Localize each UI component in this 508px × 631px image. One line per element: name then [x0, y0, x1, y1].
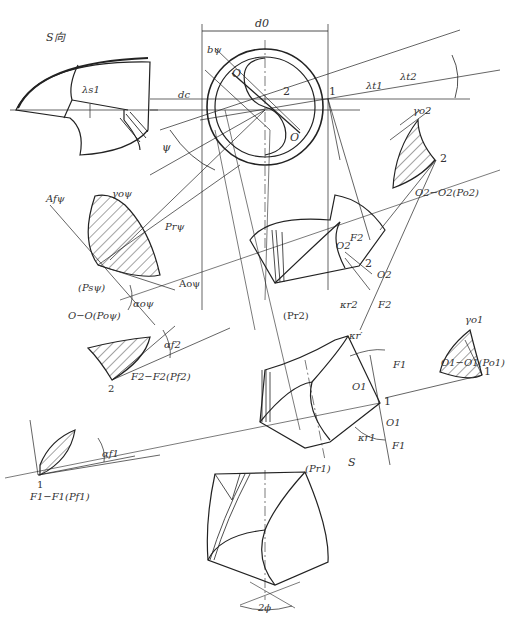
kappa-r1-label: κr1: [358, 433, 376, 443]
two-phi-label: 2ϕ: [258, 603, 271, 613]
lambda-s1-label: λs1: [82, 85, 100, 95]
o-section-label: O−O(Poψ): [68, 311, 121, 321]
psi-label: ψ: [162, 142, 171, 153]
o1-section-label: O1−O1(Po1): [441, 358, 505, 368]
f1-section-label: F1−F1(Pf1): [30, 492, 90, 502]
o2-section-label: O2−O2(Po2): [415, 188, 479, 198]
f2-b-label: F2: [378, 300, 391, 310]
point-2-right-label: 2: [440, 153, 447, 164]
o1-a-label: O1: [352, 382, 367, 392]
dc-label: dc: [178, 90, 190, 100]
o-bottom-label: O: [290, 132, 299, 143]
lambda-t1-label: λt1: [366, 81, 383, 91]
drill-bottom-view: [207, 470, 328, 610]
o2-b-label: O2: [377, 270, 392, 280]
point-2-mid-label: 2: [365, 258, 372, 269]
drill-geometry-diagram: S向 λs1 d0 bψ dc O O 2 1 λt1 λt2 ψ γo2 2 …: [0, 0, 508, 631]
a-f-psi-label: Afψ: [46, 194, 65, 204]
point-1-mid-label: 1: [384, 396, 391, 407]
f1-b-label: F1: [392, 441, 405, 451]
kappa-r2-label: κr2: [340, 300, 358, 310]
f1-section: [30, 420, 160, 475]
p-r2-label: (Pr2): [283, 311, 309, 321]
lambda-t2-label: λt2: [400, 72, 417, 82]
f2-a-label: F2: [350, 233, 363, 243]
alpha-f2-label: αf2: [164, 340, 181, 350]
point-1-left-label: 1: [37, 480, 43, 490]
point-2-top-label: 2: [283, 86, 290, 97]
a-o-psi-label: Aoψ: [179, 279, 200, 289]
p-r1-label: (Pr1): [305, 464, 331, 474]
point-1-top-label: 1: [329, 86, 336, 97]
gamma-o1-label: γo1: [465, 315, 483, 325]
o-top-label: O: [232, 68, 241, 79]
gamma-o-psi-label: γoψ: [112, 189, 132, 199]
kappa-r-prime-label: κr′: [349, 331, 363, 341]
s-view-label: S向: [46, 32, 65, 43]
b-psi-label: bψ: [207, 45, 221, 55]
alpha-f1-label: αf1: [102, 449, 119, 459]
s-view-drill-section: [10, 58, 158, 155]
point-2-lower-label: 2: [108, 384, 114, 394]
f2-section-label: F2−F2(Pf2): [131, 372, 191, 382]
p-s-psi-label: (Psψ): [78, 283, 105, 293]
f1-a-label: F1: [393, 360, 406, 370]
alpha-o-psi-label: αoψ: [133, 299, 154, 309]
p-r-psi-label: Prψ: [165, 222, 184, 232]
o2-section: [360, 110, 436, 330]
o1-b-label: O1: [386, 418, 401, 428]
s-direction-label: S: [348, 457, 356, 468]
o2-a-label: O2: [336, 241, 351, 251]
gamma-o2-label: γo2: [413, 106, 431, 116]
d0-label: d0: [255, 18, 269, 29]
